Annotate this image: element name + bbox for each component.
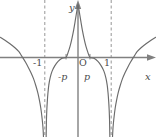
- curve-right-outer-branch: [113, 37, 156, 137]
- x-axis-arrowhead: [147, 54, 156, 60]
- x-tick-label-neg-p: -p: [58, 72, 67, 82]
- x-tick-label-one: 1: [104, 58, 110, 68]
- curve-right-inner-branch: [78, 5, 110, 137]
- origin-label: O: [79, 58, 87, 68]
- x-tick-label-p: p: [84, 72, 90, 82]
- x-axis-label: x: [145, 72, 151, 82]
- function-graph-figure: y x O -1 1 -p p: [0, 0, 156, 137]
- x-tick-label-neg-one: -1: [33, 58, 42, 68]
- y-axis-label: y: [69, 3, 75, 13]
- curve-left-outer-branch: [0, 37, 43, 137]
- axes-group: [0, 0, 156, 137]
- graph-canvas: [0, 0, 156, 137]
